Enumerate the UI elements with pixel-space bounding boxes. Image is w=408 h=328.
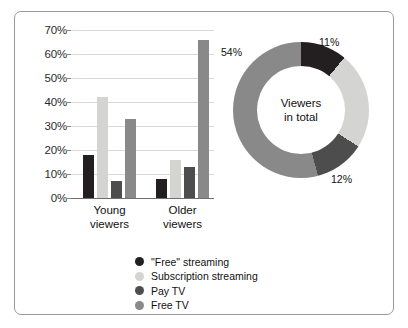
grouped-bar-chart: 0%10%20%30%40%50%60%70% YoungviewersOlde… — [25, 20, 215, 245]
y-axis-tick-10: 10% — [27, 168, 67, 180]
y-axis-tick-60: 60% — [27, 48, 67, 60]
tick-mark-0 — [66, 198, 71, 199]
bar — [83, 155, 94, 198]
legend-item: Pay TV — [135, 284, 335, 297]
legend-swatch-icon — [135, 286, 144, 295]
y-axis-tick-50: 50% — [27, 72, 67, 84]
legend-label: Subscription streaming — [151, 270, 258, 282]
legend-item: Free TV — [135, 299, 335, 312]
chart-figure: 0%10%20%30%40%50%60%70% YoungviewersOlde… — [14, 11, 394, 315]
donut-label-12: 12% — [331, 173, 352, 185]
y-axis-tick-30: 30% — [27, 120, 67, 132]
legend-label: Pay TV — [151, 285, 185, 297]
donut-center-line: Viewers — [281, 96, 322, 110]
y-axis-tick-0: 0% — [27, 192, 67, 204]
donut-center-label: Viewersin total — [257, 66, 345, 154]
x-axis-label-older-viewers: Olderviewers — [138, 204, 228, 231]
bar — [125, 119, 136, 198]
legend-swatch-icon — [135, 272, 144, 281]
x-axis-label-line: Older — [138, 204, 228, 218]
y-axis-tick-20: 20% — [27, 144, 67, 156]
donut-label-54: 54% — [221, 46, 242, 58]
chart-legend: "Free" streamingSubscription streamingPa… — [135, 255, 335, 313]
y-axis-tick-70: 70% — [27, 24, 67, 36]
legend-label: "Free" streaming — [151, 256, 229, 268]
x-axis-label-line: viewers — [138, 218, 228, 232]
legend-swatch-icon — [135, 257, 144, 266]
donut-chart: Viewersin total 11%12%54% — [215, 34, 387, 206]
legend-item: Subscription streaming — [135, 270, 335, 283]
bar-group-older-viewers — [156, 30, 209, 198]
y-axis-tick-40: 40% — [27, 96, 67, 108]
legend-label: Free TV — [151, 299, 189, 311]
donut-center-line: in total — [284, 110, 318, 124]
bar — [170, 160, 181, 198]
donut-label-11: 11% — [319, 36, 339, 48]
bar — [184, 167, 195, 198]
bar — [111, 181, 122, 198]
bar — [198, 40, 209, 198]
bar-group-young-viewers — [83, 30, 136, 198]
bar-plot-area — [71, 30, 214, 198]
x-axis-baseline — [71, 198, 214, 199]
bar — [97, 97, 108, 198]
legend-item: "Free" streaming — [135, 255, 335, 268]
legend-swatch-icon — [135, 301, 144, 310]
bar — [156, 179, 167, 198]
